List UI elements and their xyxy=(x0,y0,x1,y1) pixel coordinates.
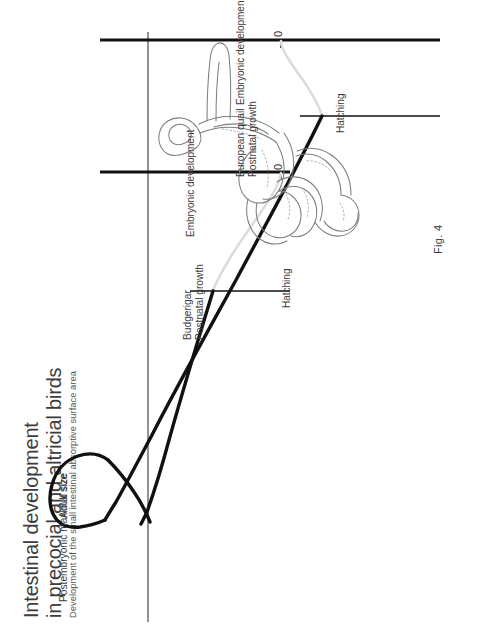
budgerigar-phase-name: Postnatal growth xyxy=(194,264,206,340)
quail-species-name: European quail xyxy=(235,101,247,177)
quail-decline-to-adult xyxy=(108,460,150,522)
label-budgerigar-embryonic-development: Embryonic development xyxy=(185,130,196,237)
label-budgerigar-zero: 0 xyxy=(272,164,284,170)
label-european-quail-postnatal-growth: European quail Postnatal growth xyxy=(235,101,259,177)
label-budgerigar-hatching: Hatching xyxy=(281,269,292,308)
quail-phase-name: Postnatal growth xyxy=(247,101,259,177)
budgerigar-species-name: Budgerigar xyxy=(182,264,194,340)
budgerigar-embryonic-curve xyxy=(213,173,281,290)
label-adult-size: Adult size xyxy=(58,474,69,518)
figure-canvas: Intestinal development in precocial and … xyxy=(0,0,489,640)
quail-postnatal-curve xyxy=(105,116,322,520)
label-quail-hatching: Hatching xyxy=(335,94,346,133)
label-budgerigar-postnatal-growth: Budgerigar Postnatal growth xyxy=(182,264,206,340)
label-quail-embryonic-development: Embryonic development xyxy=(235,0,246,105)
quail-embryonic-curve xyxy=(281,41,322,115)
label-quail-zero: 0 xyxy=(272,31,284,37)
